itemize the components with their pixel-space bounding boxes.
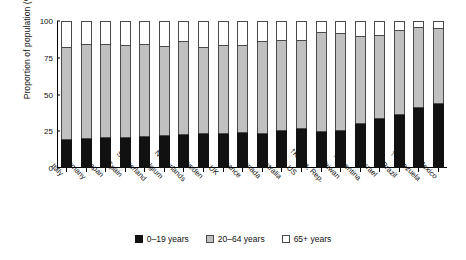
x-tick-mark [125,168,126,172]
x-label-holder: Sweden [198,173,209,225]
y-tick-75: 75 [44,53,57,62]
x-label-holder: †Argentina [355,173,366,225]
x-label-holder: †Mexico [433,173,444,225]
bar-segment [296,40,307,127]
legend-label: 65+ years [294,234,332,244]
x-tick-mark [164,168,165,172]
x-label-holder: †Korea, Rep. [316,173,327,225]
bar-segment [296,21,307,40]
bar-segment [218,21,229,45]
bar-segment [355,21,366,36]
stacked-bar-chart-figure: Proportion of population (%) 0255075100 … [0,0,466,260]
bar-segment [198,21,209,47]
bar-segment [316,32,327,131]
bar-segment [237,45,248,132]
bar-segment [276,21,287,40]
bar-column[interactable] [120,21,131,168]
bar-segment [139,44,150,136]
x-label-holder: France [237,173,248,225]
bar-segment [120,45,131,137]
x-label-holder: Canada [257,173,268,225]
bar-segment [374,21,385,35]
bar-segment [178,41,189,134]
bar-column[interactable] [374,21,385,168]
legend-item[interactable]: 65+ years [282,234,332,244]
bar-segment [237,21,248,45]
x-tick-mark [321,168,322,172]
y-axis-title: Proportion of population (%) [22,0,32,125]
x-tick-mark [86,168,87,172]
x-tick-mark [281,168,282,172]
x-tick-mark [262,168,263,172]
x-label-holder: †Taiwan [335,173,346,225]
chart-legend: 0–19 years20–64 years65+ years [0,234,466,244]
bar-segment [335,33,346,130]
bar-column[interactable] [335,21,346,168]
x-label-holder: †Venezuela [413,173,424,225]
bar-column[interactable] [413,21,424,168]
y-tick-label: 50 [44,90,57,99]
bar-column[interactable] [100,21,111,168]
plot-area: 0255075100 [57,21,447,168]
y-tick-label: 25 [44,127,57,136]
x-label-holder: Switzerland [139,173,150,225]
bar-column[interactable] [218,21,229,168]
y-tick-label: 75 [44,53,57,62]
bar-column[interactable] [296,21,307,168]
bar-column[interactable] [178,21,189,168]
x-tick-mark [418,168,419,172]
bar-segment [100,44,111,138]
bar-segment [178,21,189,41]
bar-segment [355,36,366,123]
bar-column[interactable] [355,21,366,168]
bar-segment [159,21,170,46]
bar-segment [433,103,444,168]
bar-segment [139,21,150,44]
bar-column[interactable] [198,21,209,168]
x-tick-mark [144,168,145,172]
bar-segment [198,47,209,133]
bar-column[interactable] [316,21,327,168]
bar-column[interactable] [433,21,444,168]
bar-column[interactable] [394,21,405,168]
bar-segment [413,27,424,107]
legend-swatch-icon [282,235,290,243]
bar-column[interactable] [61,21,72,168]
bar-column[interactable] [81,21,92,168]
y-tick-25: 25 [44,127,57,136]
legend-swatch-icon [206,235,214,243]
y-tick-100: 100 [40,17,57,26]
bar-segment [316,21,327,32]
bar-column[interactable] [159,21,170,168]
x-label-holder: UK [218,173,229,225]
legend-swatch-icon [135,235,143,243]
x-tick-mark [301,168,302,172]
bar-column[interactable] [276,21,287,168]
bar-segment [61,47,72,139]
bar-segment [81,21,92,44]
x-label-holder: US [296,173,307,225]
x-label-holder: Japan [100,173,111,225]
x-label-holder: Belgium [159,173,170,225]
bar-segment [374,35,385,118]
bar-column[interactable] [237,21,248,168]
legend-label: 0–19 years [147,234,189,244]
y-tick-50: 50 [44,90,57,99]
bar-segment [100,21,111,44]
x-label-holder: Italy [61,173,72,225]
bar-segment [433,21,444,28]
legend-item[interactable]: 0–19 years [135,234,189,244]
legend-label: 20–64 years [218,234,265,244]
bar-segment [276,40,287,130]
bar-group [58,21,447,168]
y-tick-label: 100 [40,17,57,26]
bar-segment [394,30,405,115]
legend-item[interactable]: 20–64 years [206,234,265,244]
bar-column[interactable] [257,21,268,168]
x-tick-mark [183,168,184,172]
bar-segment [159,46,170,135]
bar-segment [257,21,268,41]
bar-column[interactable] [139,21,150,168]
x-tick-mark [360,168,361,172]
x-tick-mark [379,168,380,172]
